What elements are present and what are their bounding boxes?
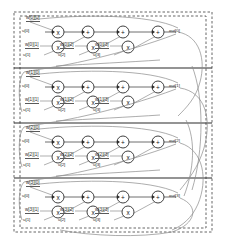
input-label-r3-1: u[1] xyxy=(23,218,30,222)
weight-label-r2-1: w[2][1] xyxy=(25,153,39,159)
label-layer: w[0][0] u[0] w[0][1] w[0][2] w[0][3] u[1… xyxy=(0,0,227,242)
weight-label-r2-3: w[2][3] xyxy=(95,153,109,159)
input-label-r3-0: u[0] xyxy=(22,194,29,198)
input-label-r0-0: u[0] xyxy=(22,29,29,33)
weight-label-r2-2: w[2][2] xyxy=(60,153,74,159)
input-label-r2-0: u[0] xyxy=(22,139,29,143)
weight-label-r0-3: w[0][3] xyxy=(95,43,109,49)
weight-label-r0-0: w[0][0] xyxy=(26,16,40,22)
weight-label-r1-0: w[1][0] xyxy=(26,71,40,77)
output-label-r2: out[2] xyxy=(169,139,180,143)
weight-label-r1-3: w[1][3] xyxy=(95,98,109,104)
output-label-r3: out[3] xyxy=(169,194,180,198)
input-label-r1-2: u[2] xyxy=(58,108,65,112)
output-label-r1: out[1] xyxy=(169,84,180,88)
weight-label-r3-3: w[3][3] xyxy=(95,208,109,214)
weight-label-r3-2: w[3][2] xyxy=(60,208,74,214)
input-label-r0-3: u[3] xyxy=(93,53,100,57)
input-label-r3-3: u[3] xyxy=(93,218,100,222)
input-label-r2-3: u[3] xyxy=(93,163,100,167)
weight-label-r0-2: w[0][2] xyxy=(60,43,74,49)
weight-label-r3-0: w[3][0] xyxy=(26,181,40,187)
weight-label-r3-1: w[3][1] xyxy=(25,208,39,214)
weight-label-r0-1: w[0][1] xyxy=(25,43,39,49)
output-label-r0: out[0] xyxy=(169,29,180,33)
input-label-r3-2: u[2] xyxy=(58,218,65,222)
input-label-r1-0: u[0] xyxy=(22,84,29,88)
input-label-r1-3: u[3] xyxy=(93,108,100,112)
input-label-r1-1: u[1] xyxy=(23,108,30,112)
weight-label-r1-2: w[1][2] xyxy=(60,98,74,104)
input-label-r2-2: u[2] xyxy=(58,163,65,167)
input-label-r2-1: u[1] xyxy=(23,163,30,167)
diagram-canvas: x + + + x x x xyxy=(0,0,227,242)
weight-label-r2-0: w[2][0] xyxy=(26,126,40,132)
input-label-r0-2: u[2] xyxy=(58,53,65,57)
input-label-r0-1: u[1] xyxy=(23,53,30,57)
weight-label-r1-1: w[1][1] xyxy=(25,98,39,104)
